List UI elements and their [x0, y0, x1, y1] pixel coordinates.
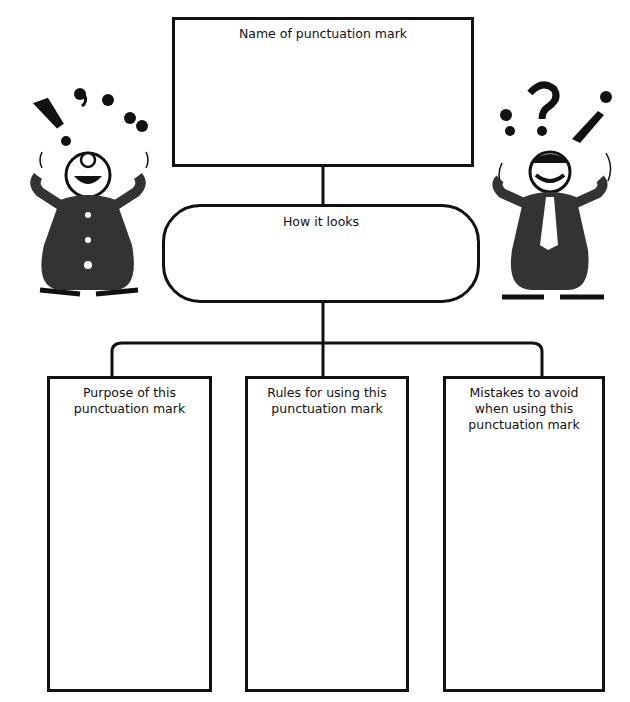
- inverted-exclamation-icon: [572, 91, 612, 143]
- mistakes-box[interactable]: Mistakes to avoid when using this punctu…: [443, 376, 605, 692]
- comma-icon: [74, 88, 86, 106]
- left-clown-illustration: [10, 80, 160, 305]
- quote-mark-icon: [124, 112, 148, 132]
- mistakes-label: Mistakes to avoid when using this punctu…: [446, 385, 602, 433]
- how-it-looks-label: How it looks: [165, 214, 477, 230]
- rules-box[interactable]: Rules for using this punctuation mark: [245, 376, 409, 692]
- period-icon: [102, 94, 114, 106]
- name-of-mark-box[interactable]: Name of punctuation mark: [172, 17, 474, 167]
- question-mark-icon: [530, 85, 556, 136]
- semicolon-icon: [500, 109, 515, 136]
- how-it-looks-box[interactable]: How it looks: [162, 204, 480, 303]
- right-clown-illustration: [488, 75, 623, 305]
- rules-label: Rules for using this punctuation mark: [248, 385, 406, 417]
- name-of-mark-label: Name of punctuation mark: [175, 26, 471, 42]
- purpose-box[interactable]: Purpose of this punctuation mark: [47, 376, 212, 692]
- purpose-label: Purpose of this punctuation mark: [50, 385, 209, 417]
- exclamation-mark-icon: [33, 96, 71, 146]
